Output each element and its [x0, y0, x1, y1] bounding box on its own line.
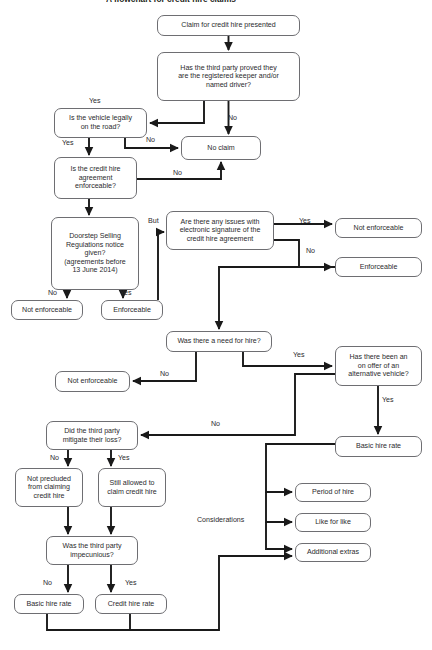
node-doorstep-selling-regulations[interactable]: Doorstep Selling Regulations notice give… — [51, 217, 139, 290]
node-enforceable-esign[interactable]: Enforceable — [335, 257, 422, 277]
edge-trunk-to-like-for-like — [266, 492, 292, 522]
edge-label-mitigate-yes: Yes — [118, 455, 130, 462]
node-mitigate-their-loss[interactable]: Did the third party mitigate their loss? — [46, 421, 138, 450]
edge-label-need-no: No — [160, 371, 169, 378]
node-like-for-like[interactable]: Like for like — [295, 513, 371, 532]
node-not-enforceable-esign[interactable]: Not enforceable — [335, 218, 422, 238]
edge-label-alternative-no: No — [211, 421, 220, 428]
edge-label-impecunious-no: No — [43, 580, 52, 587]
edge-label-keeper-no: No — [228, 115, 237, 122]
node-electronic-signature-issues[interactable]: Are there any issues with electronic sig… — [166, 211, 274, 250]
flowchart-canvas: A flowchart for credit hire claims — [0, 0, 432, 650]
edge-esignature-no-to-enforceable — [274, 240, 332, 267]
node-enforceable-doorstep[interactable]: Enforceable — [101, 300, 163, 320]
edge-label-doorstep-yes: Yes — [120, 290, 132, 297]
node-basic-hire-rate-main[interactable]: Basic hire rate — [335, 436, 422, 457]
node-vehicle-legally-on-road[interactable]: Is the vehicle legally on the road? — [54, 108, 147, 138]
edge-label-need-yes: Yes — [293, 352, 305, 359]
node-third-party-impecunious[interactable]: Was the third party impecunious? — [46, 536, 138, 565]
edge-label-impecunious-yes: Yes — [125, 580, 137, 587]
node-no-claim[interactable]: No claim — [181, 136, 261, 160]
edge-label-doorstep-no: No — [48, 290, 57, 297]
node-period-of-hire[interactable]: Period of hire — [295, 483, 371, 502]
edge-keeper-yes-to-vehicle — [150, 101, 204, 123]
edge-trunk-to-additional-extras — [266, 522, 292, 549]
node-claim-for-credit-hire-presented[interactable]: Claim for credit hire presented — [157, 15, 300, 36]
edge-label-vehicle-yes: Yes — [62, 140, 74, 147]
edge-need-yes-to-alternative — [243, 352, 332, 366]
node-credit-hire-agreement-enforceable[interactable]: Is the credit hire agreement enforceable… — [54, 157, 137, 199]
node-offer-alternative-vehicle[interactable]: Has there been an on offer of an alterna… — [335, 346, 422, 386]
node-still-allowed-to-claim[interactable]: Still allowed to claim credit hire — [98, 468, 166, 507]
node-basic-hire-rate-final[interactable]: Basic hire rate — [14, 594, 84, 614]
edge-label-mitigate-no: No — [50, 455, 59, 462]
edge-label-keeper-yes: Yes — [89, 98, 101, 105]
edge-enforceable-but-to-esignature — [158, 232, 164, 300]
edge-label-esign-yes: Yes — [299, 218, 311, 225]
node-need-for-hire[interactable]: Was there a need for hire? — [166, 331, 272, 352]
considerations-label: Considerations — [197, 516, 244, 524]
edge-label-vehicle-no: No — [146, 137, 155, 144]
edge-label-alternative-yes: Yes — [382, 397, 394, 404]
node-additional-extras[interactable]: Additional extras — [295, 543, 371, 562]
edge-label-but: But — [148, 218, 159, 225]
edge-alternative-no-to-mitigate — [141, 374, 335, 435]
node-not-enforceable-doorstep[interactable]: Not enforceable — [11, 300, 83, 320]
edge-bottom-rates-to-additional-extras — [47, 556, 292, 630]
edge-enforceable-to-need-for-hire — [219, 267, 335, 329]
node-third-party-registered-keeper[interactable]: Has the third party proved they are the … — [157, 52, 300, 101]
node-not-enforceable-need[interactable]: Not enforceable — [55, 371, 130, 392]
edge-label-esign-no: No — [306, 248, 315, 255]
edge-label-agreement-no: No — [173, 170, 182, 177]
node-credit-hire-rate-final[interactable]: Credit hire rate — [95, 594, 167, 614]
node-not-precluded-from-claiming[interactable]: Not precluded from claiming credit hire — [15, 468, 83, 507]
page-title: A flowchart for credit hire claims — [106, 0, 236, 4]
